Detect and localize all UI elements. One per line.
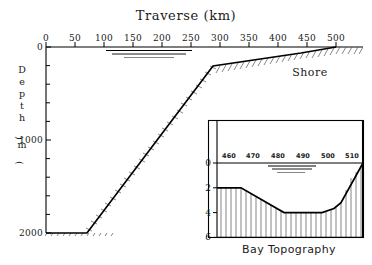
y-axis-title-letter: D — [18, 64, 26, 75]
bathymetry-figure: Traverse (km) 0 50 100 150 200 250 — [0, 0, 372, 265]
survey-range-markers — [106, 51, 192, 58]
inset-caption: Bay Topography — [242, 243, 336, 256]
y-tick-label: 0 — [37, 42, 43, 52]
x-tick-label: 400 — [269, 33, 287, 43]
x-tick-label: 50 — [69, 33, 81, 43]
inset-bay-topography: 0 2 4 6 460 470 480 490 500 510 — [205, 121, 363, 257]
x-tick-label: 500 — [327, 33, 345, 43]
inset-y-tick-label: 0 — [205, 158, 211, 168]
inset-x-tick-label: 460 — [222, 152, 236, 160]
inset-x-tick-label: 510 — [345, 152, 359, 160]
inset-x-tick-label: 470 — [246, 152, 260, 160]
y-tick-label: 2000 — [19, 228, 43, 238]
inset-x-tick-label: 480 — [271, 152, 285, 160]
y-axis-unit-letter: m — [17, 139, 26, 150]
y-axis-title: D e p t h ( m ) — [13, 64, 27, 165]
y-axis-title-letter: p — [19, 88, 25, 99]
inset-y-tick-label: 6 — [205, 232, 211, 242]
inset-y-tick-label: 2 — [205, 183, 211, 193]
x-tick-label: 100 — [95, 33, 113, 43]
x-tick-label: 250 — [182, 33, 200, 43]
chart-title: Traverse (km) — [136, 8, 237, 23]
x-tick-label: 350 — [240, 33, 258, 43]
y-axis-ticks — [46, 47, 51, 233]
x-tick-label: 200 — [153, 33, 171, 43]
y-axis-title-letter: e — [19, 76, 25, 87]
figure-container: Traverse (km) 0 50 100 150 200 250 — [0, 0, 372, 265]
x-tick-label: 150 — [124, 33, 142, 43]
inset-x-tick-label: 490 — [296, 152, 310, 160]
inset-x-tick-label: 500 — [321, 152, 335, 160]
x-axis-tick-labels: 0 50 100 150 200 250 300 350 400 450 500 — [43, 33, 345, 43]
inset-y-tick-label: 4 — [205, 208, 211, 218]
x-tick-label: 300 — [211, 33, 229, 43]
x-tick-label: 450 — [298, 33, 316, 43]
y-axis-title-letter: t — [20, 100, 24, 111]
shore-label: Shore — [292, 66, 328, 79]
y-axis-title-letter: h — [19, 112, 25, 123]
y-axis-unit-letter: ) — [13, 161, 24, 165]
x-tick-label: 0 — [43, 33, 49, 43]
